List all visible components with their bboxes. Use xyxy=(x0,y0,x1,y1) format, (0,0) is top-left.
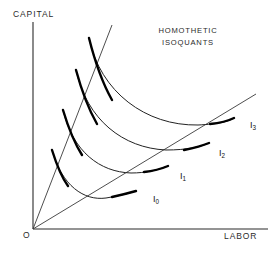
isoquant-label-I0-sub: 0 xyxy=(156,198,160,205)
isoquant-label-I3-sub: 3 xyxy=(253,124,257,131)
isoquant-path-I1 xyxy=(63,110,168,173)
isoquant-path-I3 xyxy=(89,38,234,125)
figure-title: HOMOTHETIC ISOQUANTS xyxy=(140,26,236,47)
origin-label: O xyxy=(23,231,30,240)
isoquant-I0-tangency-shallow xyxy=(112,191,136,197)
isoquant-label-I1-sub: 1 xyxy=(183,175,187,182)
y-axis-label: CAPITAL xyxy=(13,10,54,19)
isoquant-label-I2: I2 xyxy=(209,140,225,167)
isoquant-I1-tangency-shallow xyxy=(144,166,168,172)
isoquant-I2-tangency-steep xyxy=(76,70,97,124)
isoquant-curve-I2 xyxy=(76,70,209,150)
isoquant-curve-I3 xyxy=(89,38,234,125)
figure-title-line-1: HOMOTHETIC xyxy=(140,26,236,35)
isoquant-I2-tangency-shallow xyxy=(184,143,209,150)
isoquant-label-I0: I0 xyxy=(143,186,159,213)
isoquant-I3-tangency-shallow xyxy=(210,118,234,124)
figure-title-line-2: ISOQUANTS xyxy=(140,38,236,47)
isoquant-I1-tangency-steep xyxy=(63,110,82,155)
isoquant-path-I2 xyxy=(76,70,209,150)
isoquant-curve-I1 xyxy=(63,110,168,173)
isoquant-label-I3: I3 xyxy=(240,112,256,139)
isoquant-figure: CAPITAL LABOR O HOMOTHETIC ISOQUANTS I0 … xyxy=(0,0,275,254)
x-axis-label: LABOR xyxy=(224,232,257,241)
isoquant-label-I1: I1 xyxy=(170,163,186,190)
isoquant-I0-tangency-steep xyxy=(52,150,68,186)
isoquant-label-I2-sub: 2 xyxy=(222,152,226,159)
